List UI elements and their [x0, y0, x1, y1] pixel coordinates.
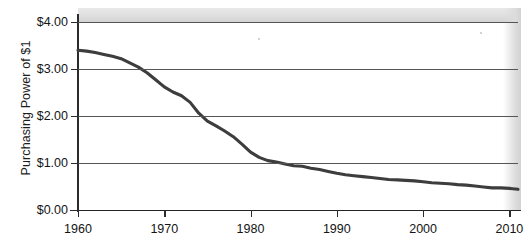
y-axis-tick-labels: $0.00$1.00$2.00$3.00$4.00: [10, 0, 68, 246]
gridline-horizontal: [78, 69, 518, 70]
y-axis-tick-label: $0.00: [12, 203, 68, 217]
y-axis-tick-label: $1.00: [12, 156, 68, 170]
y-axis-tick-mark: [71, 116, 78, 117]
x-axis-tick-label: 2000: [409, 222, 437, 236]
y-axis-tick-label: $3.00: [12, 62, 68, 76]
y-axis-tick-label: $4.00: [12, 15, 68, 29]
y-axis-tick-label: $2.00: [12, 109, 68, 123]
x-axis-tick-mark: [251, 210, 252, 217]
y-axis-tick-mark: [71, 210, 78, 211]
y-axis-tick-mark: [71, 69, 78, 70]
plot-area: [78, 22, 518, 210]
y-axis-tick-mark: [71, 163, 78, 164]
x-axis-tick-mark: [509, 210, 510, 217]
x-axis-tick-mark: [78, 210, 79, 217]
gridline-horizontal: [78, 22, 518, 23]
x-axis-tick-mark: [337, 210, 338, 217]
gridline-horizontal: [78, 116, 518, 117]
x-axis-tick-label: 1960: [64, 222, 92, 236]
x-axis-tick-mark: [423, 210, 424, 217]
x-axis-tick-label: 1970: [150, 222, 178, 236]
gridline-horizontal: [78, 163, 518, 164]
chart-screenshot: Purchasing Power of $1 $0.00$1.00$2.00$3…: [0, 0, 527, 246]
x-axis-tick-mark: [164, 210, 165, 217]
x-axis-tick-label: 1990: [323, 222, 351, 236]
scan-artifact-band-top: [78, 8, 518, 23]
x-axis-tick-label: 2010: [495, 222, 523, 236]
x-axis-tick-label: 1980: [237, 222, 265, 236]
y-axis-tick-mark: [71, 22, 78, 23]
